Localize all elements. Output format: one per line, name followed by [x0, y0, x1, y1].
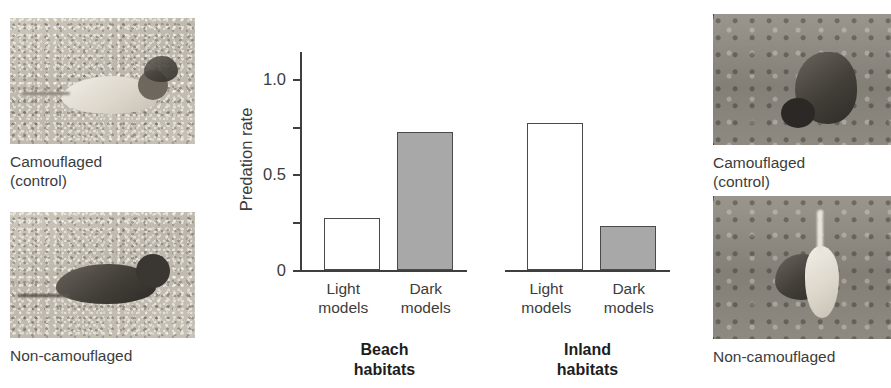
- plot-area: 0 0.5 1.0 Light models Dark models Beach…: [300, 52, 692, 272]
- panel-inland-category-labels: Light models Dark models: [505, 280, 670, 317]
- photo-caption-inland-non-camouflaged: Non-camouflaged: [713, 348, 891, 367]
- bar-beach-dark-models: [397, 132, 453, 270]
- photo-caption-beach-camouflaged: Camouflaged (control): [10, 153, 210, 191]
- mouse-head: [781, 98, 815, 128]
- y-axis-title: Predation rate: [237, 80, 256, 240]
- y-tick-10: 1.0: [293, 79, 301, 81]
- inland-photo-column: Camouflaged (control) Non-camouflaged: [713, 0, 891, 388]
- panel-title-beach: Beach habitats: [302, 340, 467, 379]
- y-tick-025: [293, 222, 301, 224]
- panel-baseline: [302, 270, 467, 272]
- predation-rate-chart: Predation rate 0 0.5 1.0 Light models Da…: [228, 0, 698, 388]
- panel-inland: Light models Dark models Inland habitats: [505, 52, 670, 272]
- panel-title-inland: Inland habitats: [505, 340, 670, 379]
- photo-inland-camouflaged: [713, 14, 891, 145]
- beach-photo-column: Camouflaged (control) Non-camouflaged: [10, 0, 215, 388]
- y-tick-05: 0.5: [293, 174, 301, 176]
- photo-block-inland-camouflaged: Camouflaged (control): [713, 14, 891, 192]
- y-tick-075: [293, 127, 301, 129]
- panel-beach: Light models Dark models Beach habitats: [302, 52, 467, 272]
- photo-block-inland-non-camouflaged: Non-camouflaged: [713, 196, 891, 367]
- mouse-ear-shadow: [144, 56, 178, 82]
- bar-inland-light-models: [527, 123, 583, 270]
- mouse-tail: [18, 294, 70, 297]
- y-tick-label-05: 0.5: [263, 165, 286, 184]
- mouse-tail: [817, 210, 823, 254]
- mouse-head: [136, 254, 170, 288]
- y-tick-label-10: 1.0: [263, 69, 286, 88]
- bar-inland-dark-models: [600, 226, 656, 270]
- panel-beach-category-labels: Light models Dark models: [302, 280, 467, 317]
- category-label-light-models: Light models: [302, 280, 385, 317]
- photo-caption-inland-camouflaged: Camouflaged (control): [713, 154, 891, 192]
- category-label-dark-models: Dark models: [588, 280, 671, 317]
- photo-block-beach-non-camouflaged: Non-camouflaged: [10, 212, 210, 366]
- photo-caption-beach-non-camouflaged: Non-camouflaged: [10, 347, 210, 366]
- mouse-tail: [22, 92, 70, 95]
- category-label-light-models: Light models: [505, 280, 588, 317]
- panel-baseline: [505, 270, 670, 272]
- bar-beach-light-models: [324, 218, 380, 270]
- y-tick-0: 0: [293, 270, 301, 272]
- photo-block-beach-camouflaged: Camouflaged (control): [10, 18, 210, 191]
- y-tick-label-0: 0: [277, 261, 286, 280]
- photo-beach-non-camouflaged: [10, 212, 195, 338]
- photo-beach-camouflaged: [10, 18, 195, 144]
- category-label-dark-models: Dark models: [385, 280, 468, 317]
- photo-inland-non-camouflaged: [713, 196, 891, 339]
